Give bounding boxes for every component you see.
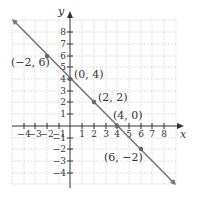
point-2-2 <box>92 100 96 104</box>
x-tick-label: 3 <box>103 129 109 139</box>
y-axis-label: y <box>57 5 65 18</box>
x-tick-label: 8 <box>161 129 167 139</box>
x-tick-label: 2 <box>91 129 97 139</box>
y-tick-label: −2 <box>53 144 66 154</box>
point-4-0 <box>115 124 119 128</box>
x-tick-label: 7 <box>149 129 155 139</box>
point-labels: (−2, 6) (0, 4) (2, 2) (4, 0) (6, −2) <box>11 56 143 164</box>
y-tick-label: −4 <box>53 168 67 178</box>
point-label: (2, 2) <box>98 91 128 104</box>
y-tick-label: −3 <box>53 156 67 166</box>
y-tick-label: 8 <box>60 27 66 37</box>
y-tick-label: −1 <box>53 133 66 143</box>
y-tick-labels: 8 7 6 5 4 3 2 1 −1 −2 −3 −4 <box>53 27 67 178</box>
x-tick-labels: −4 −3 −2 −1 1 2 3 4 5 6 7 8 <box>17 129 167 139</box>
point-label: (0, 4) <box>74 68 104 81</box>
x-axis-label: x <box>180 128 187 141</box>
y-tick-label: 6 <box>60 51 66 61</box>
y-tick-label: 1 <box>60 109 66 119</box>
x-tick-label: 6 <box>138 129 144 139</box>
y-tick-label: 4 <box>60 74 66 84</box>
y-tick-label: 7 <box>60 39 66 49</box>
x-tick-label: 4 <box>114 129 120 139</box>
y-axis-arrow-icon <box>67 11 73 18</box>
coordinate-plane: −4 −3 −2 −1 1 2 3 4 5 6 7 8 8 7 6 5 4 3 … <box>0 0 199 197</box>
y-tick-label: 3 <box>60 86 66 96</box>
point-label: (6, −2) <box>104 151 143 164</box>
point-0-4 <box>68 77 72 81</box>
point-label: (4, 0) <box>113 109 143 122</box>
x-tick-label: 1 <box>79 129 85 139</box>
y-tick-label: 2 <box>60 97 66 107</box>
point-label: (−2, 6) <box>11 56 50 69</box>
